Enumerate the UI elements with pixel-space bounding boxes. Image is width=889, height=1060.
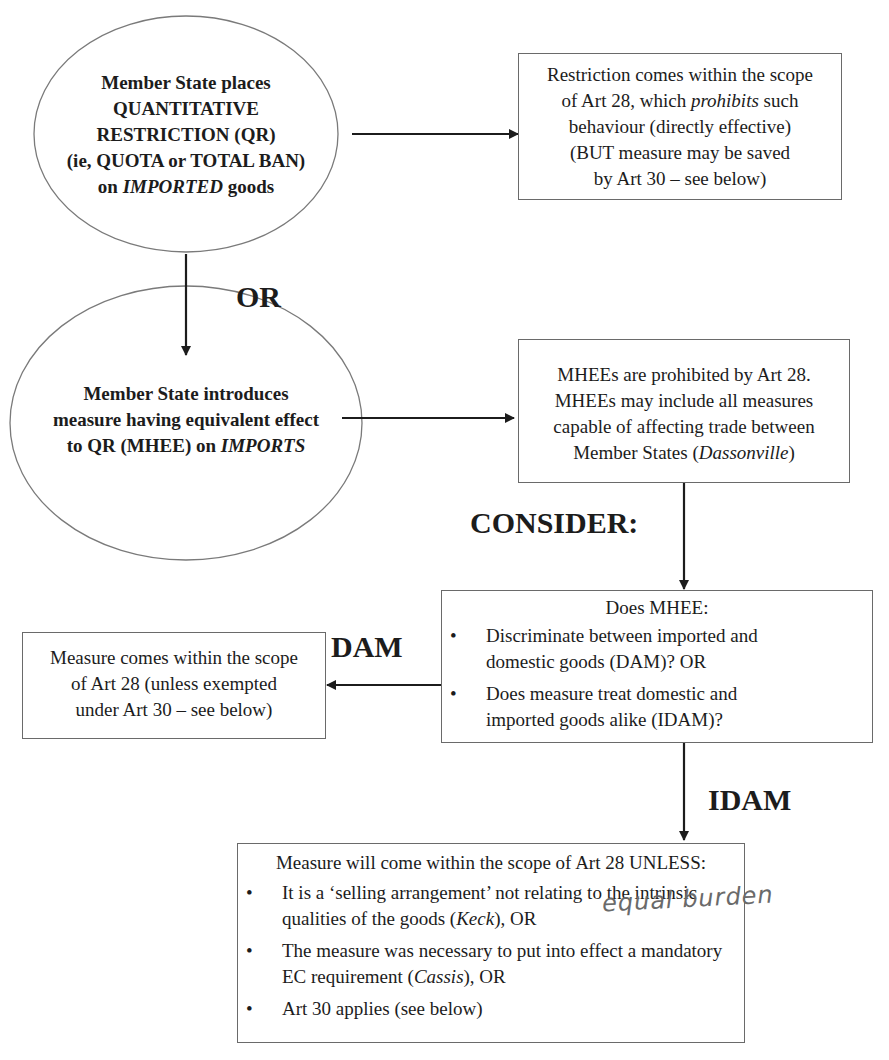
- emphasis-text: IMPORTS: [221, 435, 305, 456]
- box-line: of Art 28, which prohibits such: [519, 88, 841, 114]
- box-heading: Does MHEE:: [442, 595, 872, 621]
- box-line: of Art 28 (unless exempted: [23, 671, 325, 697]
- qr-ellipse: Member State places QUANTITATIVE RESTRIC…: [36, 40, 336, 230]
- mhee-ellipse: Member State introduces measure having e…: [20, 360, 352, 480]
- qr-result-box: Restriction comes within the scope of Ar…: [518, 53, 842, 200]
- qr-ellipse-line: QUANTITATIVE: [113, 96, 259, 122]
- box-line: Measure comes within the scope: [23, 645, 325, 671]
- bullet-icon: •: [246, 880, 253, 906]
- text-fragment: Member States (: [573, 442, 699, 463]
- text-fragment: ), OR: [494, 908, 536, 929]
- text-fragment: goods: [223, 176, 274, 197]
- bullet-line: EC requirement (Cassis), OR: [282, 964, 744, 990]
- does-mhee-box: Does MHEE: • Discriminate between import…: [441, 590, 873, 743]
- text-fragment: ), OR: [464, 966, 506, 987]
- emphasis-text: IMPORTED: [123, 176, 223, 197]
- box-line: Member States (Dassonville): [519, 440, 849, 466]
- mhee-ellipse-line: to QR (MHEE) on IMPORTS: [67, 433, 306, 459]
- text-fragment: qualities of the goods (: [282, 908, 456, 929]
- edge-label-consider: CONSIDER:: [470, 506, 638, 540]
- edge-label-or: OR: [236, 280, 281, 314]
- bullet-icon: •: [450, 681, 457, 707]
- box-line: MHEEs are prohibited by Art 28.: [519, 362, 849, 388]
- mhee-ellipse-line: Member State introduces: [83, 381, 288, 407]
- bullet-icon: •: [450, 623, 457, 649]
- bullet-line: imported goods alike (IDAM)?: [486, 707, 872, 733]
- bullet-item-dam: • Discriminate between imported and dome…: [442, 623, 872, 675]
- box-line: under Art 30 – see below): [23, 697, 325, 723]
- qr-ellipse-line: on IMPORTED goods: [98, 174, 274, 200]
- bullet-item-art30: • Art 30 applies (see below): [238, 996, 744, 1022]
- text-fragment: on: [98, 176, 123, 197]
- qr-ellipse-line: RESTRICTION (QR): [97, 122, 276, 148]
- bullet-line: The measure was necessary to put into ef…: [282, 938, 744, 964]
- emphasis-text: prohibits: [691, 90, 759, 111]
- mhee-ellipse-line: measure having equivalent effect: [53, 407, 319, 433]
- mhee-result-box: MHEEs are prohibited by Art 28. MHEEs ma…: [518, 339, 850, 483]
- idam-result-box: Measure will come within the scope of Ar…: [237, 843, 745, 1043]
- text-fragment: to QR (MHEE) on: [67, 435, 221, 456]
- bullet-line: Art 30 applies (see below): [282, 996, 744, 1022]
- emphasis-text: Dassonville: [699, 442, 789, 463]
- box-line: by Art 30 – see below): [519, 166, 841, 192]
- box-line: capable of affecting trade between: [519, 414, 849, 440]
- edge-label-dam: DAM: [331, 630, 403, 664]
- case-name: Cassis: [414, 966, 464, 987]
- text-fragment: EC requirement (: [282, 966, 414, 987]
- bullet-icon: •: [246, 938, 253, 964]
- does-mhee-bullets: • Discriminate between imported and dome…: [442, 623, 872, 733]
- bullet-line: Does measure treat domestic and: [486, 681, 872, 707]
- bullet-item-idam: • Does measure treat domestic and import…: [442, 681, 872, 733]
- box-line: (BUT measure may be saved: [519, 140, 841, 166]
- bullet-line: Discriminate between imported and: [486, 623, 872, 649]
- bullet-item-cassis: • The measure was necessary to put into …: [238, 938, 744, 990]
- box-line: MHEEs may include all measures: [519, 388, 849, 414]
- box-heading: Measure will come within the scope of Ar…: [238, 850, 744, 876]
- bullet-icon: •: [246, 996, 253, 1022]
- dam-result-box: Measure comes within the scope of Art 28…: [22, 632, 326, 739]
- text-fragment: ): [788, 442, 794, 463]
- qr-ellipse-line: Member State places: [101, 70, 271, 96]
- text-fragment: of Art 28, which: [562, 90, 691, 111]
- edge-label-idam: IDAM: [708, 783, 791, 817]
- box-line: Restriction comes within the scope: [519, 62, 841, 88]
- box-line: behaviour (directly effective): [519, 114, 841, 140]
- qr-ellipse-line: (ie, QUOTA or TOTAL BAN): [67, 148, 305, 174]
- case-name: Keck: [456, 908, 494, 929]
- text-fragment: such: [759, 90, 799, 111]
- bullet-line: domestic goods (DAM)? OR: [486, 649, 872, 675]
